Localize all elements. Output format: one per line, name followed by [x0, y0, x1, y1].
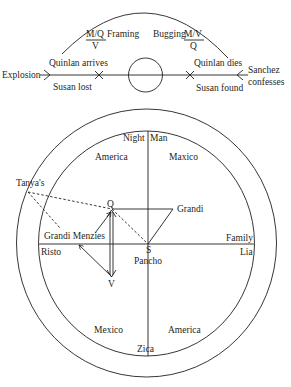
quinlan-arrives-label: Quinlan arrives — [49, 58, 108, 68]
inner-circle — [39, 131, 255, 356]
framing-numerator: M/Q — [86, 29, 104, 39]
confesses-label: confesses — [248, 77, 285, 87]
grandi-menzies-label: Grandi Menzies — [44, 231, 105, 241]
q-s-dashed-line — [112, 209, 148, 244]
pancho-label: Pancho — [134, 256, 162, 266]
bugging-denominator: Q — [190, 41, 197, 51]
circle-diagram: Night Man America Maxico Tanya's Q Grand… — [16, 109, 277, 377]
america-upper-label: America — [95, 152, 128, 162]
timeline: Explosion Quinlan arrives Susan lost Qui… — [2, 13, 285, 93]
man-label: Man — [150, 133, 168, 143]
framing-label: Framing — [107, 29, 139, 39]
lia-label: Lia — [240, 247, 253, 257]
maxico-label: Maxico — [169, 152, 198, 162]
susan-lost-label: Susan lost — [53, 82, 92, 92]
bugging-label: Bugging — [153, 29, 186, 39]
bugging-numerator: M/V — [184, 29, 202, 39]
explosion-label: Explosion — [2, 70, 41, 80]
night-label: Night — [123, 133, 145, 143]
tanyas-label: Tanya's — [16, 178, 45, 188]
risto-label: Risto — [41, 247, 61, 257]
v-menzies-arrow — [79, 245, 112, 277]
zica-label: Zica — [137, 344, 155, 354]
susan-found-label: Susan found — [196, 83, 243, 93]
family-label: Family — [226, 233, 253, 243]
grandi-label: Grandi — [177, 204, 204, 214]
v-label: V — [108, 279, 115, 289]
grandi-s-line — [148, 209, 173, 244]
s-label: S — [146, 245, 151, 255]
america-lower-label: America — [168, 325, 201, 335]
outer-circle — [17, 109, 277, 377]
quinlan-dies-label: Quinlan dies — [194, 58, 243, 68]
framing-denominator: V — [92, 41, 99, 51]
mexico-label: Mexico — [94, 325, 123, 335]
menzies-q-arrow — [95, 212, 111, 233]
sanchez-label: Sanchez — [248, 65, 280, 75]
film-structure-diagram: Explosion Quinlan arrives Susan lost Qui… — [0, 0, 291, 387]
q-label: Q — [107, 199, 114, 209]
